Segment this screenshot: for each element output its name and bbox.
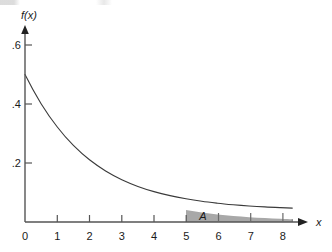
x-tick-label-2: 2 bbox=[86, 230, 92, 242]
x-tick-label-1: 1 bbox=[54, 230, 60, 242]
x-tick-label-6: 6 bbox=[215, 230, 221, 242]
x-tick-label-5: 5 bbox=[183, 230, 189, 242]
x-axis-arrowhead bbox=[298, 218, 308, 226]
y-axis-label: f(x) bbox=[21, 9, 37, 21]
chart-canvas: .6 .4 .2 f(x) 0 1 2 3 4 5 6 7 8 x A bbox=[0, 0, 332, 252]
y-tick-label-0.6: .6 bbox=[12, 39, 21, 51]
x-tick-label-4: 4 bbox=[151, 230, 157, 242]
x-axis-label: x bbox=[315, 216, 322, 228]
x-tick-label-0: 0 bbox=[22, 230, 28, 242]
area-label-A: A bbox=[198, 210, 206, 222]
x-tick-label-8: 8 bbox=[280, 230, 286, 242]
y-tick-label-0.2: .2 bbox=[12, 157, 21, 169]
density-curve bbox=[25, 75, 292, 209]
y-tick-label-0.4: .4 bbox=[12, 98, 21, 110]
x-tick-label-7: 7 bbox=[248, 230, 254, 242]
y-axis-arrowhead bbox=[21, 25, 29, 34]
x-tick-label-3: 3 bbox=[119, 230, 125, 242]
exponential-density-figure: .6 .4 .2 f(x) 0 1 2 3 4 5 6 7 8 x A bbox=[0, 0, 332, 252]
